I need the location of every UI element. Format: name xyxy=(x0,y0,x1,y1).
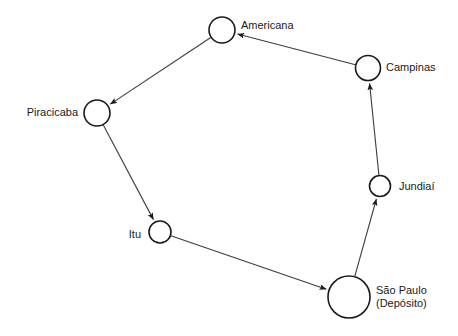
route-edge-itu-to-sao-paulo xyxy=(171,236,326,289)
node-label-line: Jundiaí xyxy=(399,180,434,192)
node-label-itu: Itu xyxy=(129,228,141,240)
node-itu[interactable] xyxy=(149,221,171,243)
node-label-campinas: Campinas xyxy=(386,61,436,73)
node-label-line: Itu xyxy=(129,228,141,240)
node-jundiai[interactable] xyxy=(370,176,391,197)
node-label-line: Campinas xyxy=(386,61,436,73)
node-campinas[interactable] xyxy=(356,56,381,81)
edge-layer xyxy=(103,34,379,289)
route-graph: AmericanaCampinasJundiaíSão Paulo(Depósi… xyxy=(0,0,458,336)
node-label-line: Piracicaba xyxy=(27,106,79,118)
route-edge-sao-paulo-to-jundiai xyxy=(355,199,377,276)
route-edge-campinas-to-americana xyxy=(237,34,355,65)
route-edge-americana-to-piracicaba xyxy=(110,37,210,104)
node-sao-paulo[interactable] xyxy=(328,276,370,318)
route-edge-jundiai-to-campinas xyxy=(370,83,379,175)
node-label-sao-paulo: São Paulo(Depósito) xyxy=(376,284,427,309)
route-edge-piracicaba-to-itu xyxy=(103,125,153,220)
node-label-line: São Paulo xyxy=(376,284,427,296)
node-piracicaba[interactable] xyxy=(84,100,110,126)
node-label-jundiai: Jundiaí xyxy=(399,180,434,192)
node-label-piracicaba: Piracicaba xyxy=(27,106,79,118)
node-label-line: (Depósito) xyxy=(376,297,427,309)
node-label-americana: Americana xyxy=(241,19,294,31)
route-diagram-canvas: AmericanaCampinasJundiaíSão Paulo(Depósi… xyxy=(0,0,458,336)
node-americana[interactable] xyxy=(209,17,235,43)
node-label-line: Americana xyxy=(241,19,294,31)
